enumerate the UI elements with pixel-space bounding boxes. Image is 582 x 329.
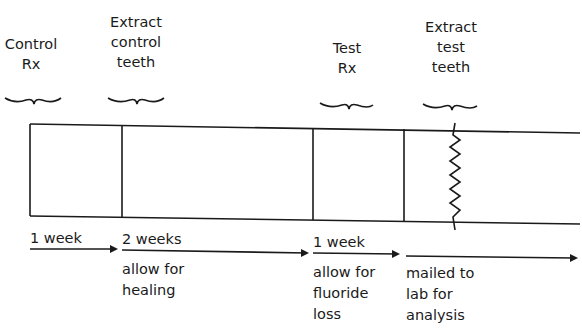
interval-3-duration: 1 week xyxy=(313,232,365,253)
brace-test-rx xyxy=(320,103,373,109)
interval-1-duration: 1 week xyxy=(30,228,82,249)
interval-2-duration: 2 weeks xyxy=(122,229,182,250)
event-control-rx: Control Rx xyxy=(0,34,62,74)
event-test-rx: Test Rx xyxy=(322,38,372,78)
event-extract-control-teeth: Extract control teeth xyxy=(100,12,172,72)
break-zigzag xyxy=(450,123,460,230)
brace-extract-control xyxy=(108,98,164,104)
event-extract-test-teeth: Extract test teeth xyxy=(416,17,486,77)
brace-extract-test xyxy=(423,104,477,110)
brace-control-rx xyxy=(5,98,61,104)
timeline-diagram xyxy=(0,0,582,329)
interval-2-note: allow for healing xyxy=(122,259,184,301)
interval-3-note: allow for fluoride loss xyxy=(313,262,375,325)
interval-4-note: mailed to lab for analysis xyxy=(406,263,474,326)
